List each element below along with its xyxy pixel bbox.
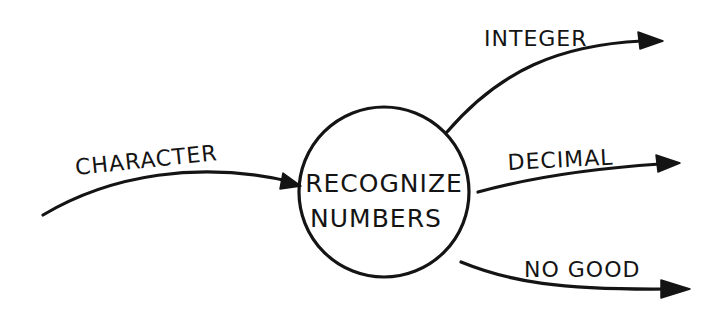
arrowhead-icon <box>656 155 680 172</box>
arrowhead-icon <box>661 280 690 298</box>
flow-integer-line <box>447 41 642 132</box>
arrowhead-icon <box>280 173 301 189</box>
flow-character-label: CHARACTER <box>74 140 219 180</box>
flow-integer: INTEGER <box>447 26 663 132</box>
process-label-line2: NUMBERS <box>310 204 442 233</box>
flow-no-good-label: NO GOOD <box>524 257 640 282</box>
data-flow-diagram: RECOGNIZE NUMBERS CHARACTER INTEGER DECI… <box>0 0 725 330</box>
flow-no-good: NO GOOD <box>461 257 690 298</box>
flow-decimal: DECIMAL <box>478 144 680 192</box>
flow-character: CHARACTER <box>43 140 301 215</box>
process-recognize-numbers: RECOGNIZE NUMBERS <box>299 107 469 277</box>
flow-integer-label: INTEGER <box>484 26 588 51</box>
arrowhead-icon <box>638 32 663 49</box>
process-label-line1: RECOGNIZE <box>305 169 463 198</box>
